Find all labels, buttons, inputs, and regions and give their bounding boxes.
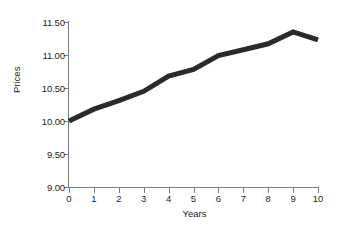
series-plot	[0, 0, 337, 235]
price-series-line	[69, 32, 318, 121]
line-chart: 9.009.5010.0010.5011.0011.50 01234567891…	[0, 0, 337, 235]
